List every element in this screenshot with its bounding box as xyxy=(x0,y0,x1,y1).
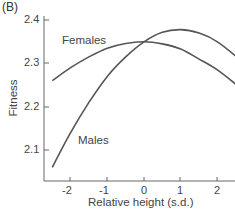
females-label: Females xyxy=(62,34,106,46)
males-curve xyxy=(52,30,235,168)
females-curve xyxy=(52,42,235,87)
y-tick-label: 2.1 xyxy=(24,143,39,155)
y-tick-label: 2.3 xyxy=(24,56,39,68)
x-axis-label: Relative height (s.d.) xyxy=(88,196,193,208)
x-tick-label: 1 xyxy=(177,184,183,196)
y-tick-label: 2.4 xyxy=(24,13,39,25)
x-tick-label: 0 xyxy=(141,184,147,196)
x-tick-label: 2 xyxy=(214,184,220,196)
y-axis-label: Fitness xyxy=(7,79,19,116)
x-tick-label: -2 xyxy=(62,184,72,196)
males-label: Males xyxy=(78,134,109,146)
x-tick-label: -1 xyxy=(99,184,109,196)
y-tick-label: 2.2 xyxy=(24,100,39,112)
